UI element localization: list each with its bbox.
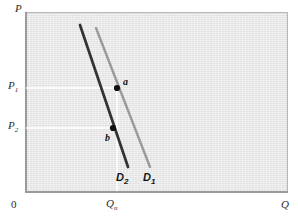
quantity-tick-sub: n — [114, 204, 118, 212]
quantity-axis-line — [25, 191, 288, 193]
curve-label-d2-letter: D — [116, 171, 124, 183]
price-high-tick-sub: 1 — [15, 86, 19, 94]
quantity-tick-letter: Q — [106, 197, 114, 209]
price-low-tick-label: P2 — [8, 120, 18, 134]
origin-label: 0 — [11, 199, 17, 210]
curve-label-d2: D2 — [116, 172, 128, 186]
point-a-label: a — [123, 77, 128, 87]
point-b-label: b — [105, 133, 110, 143]
quantity-axis-label: Q — [281, 199, 289, 210]
curve-label-d1-letter: D — [143, 171, 151, 183]
demand-curve-figure: P P1 P2 Q Qn 0 a b D2 D1 — [0, 0, 298, 220]
price-axis-label: P — [15, 3, 22, 14]
price-high-tick-letter: P — [8, 79, 15, 91]
price-high-tick-label: P1 — [8, 80, 18, 94]
price-low-tick-letter: P — [8, 119, 15, 131]
quantity-tick-label: Qn — [106, 198, 117, 212]
price-axis-line — [25, 12, 27, 193]
plot-texture — [26, 13, 287, 191]
curve-label-d1: D1 — [143, 172, 155, 186]
curve-label-d1-sub: 1 — [151, 177, 155, 186]
price-low-tick-sub: 2 — [15, 126, 19, 134]
plot-area — [25, 12, 288, 192]
curve-label-d2-sub: 2 — [124, 177, 128, 186]
